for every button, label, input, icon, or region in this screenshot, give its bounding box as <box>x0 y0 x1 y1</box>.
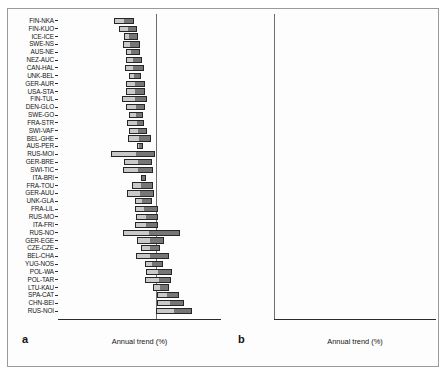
bar-row-label: GER-EGE <box>25 237 54 243</box>
bar-segment-dark <box>150 238 164 242</box>
panel-b: Annual trend (%) b <box>228 10 432 349</box>
bar-row-label: SWE-NS <box>29 41 54 47</box>
y-axis-tick <box>55 146 58 147</box>
bar-row: BEL-CHA <box>58 253 221 260</box>
plot-area-a: FIN-NKAFIN-KUOICE-ICESWE-NSAUS-NENEZ-AUC… <box>58 14 221 320</box>
bar-row-label: POL-TAR <box>28 277 54 283</box>
trend-interval-bar <box>123 230 180 236</box>
trend-interval-bar <box>145 277 172 283</box>
bar-segment-light <box>124 231 151 235</box>
y-axis-tick <box>55 287 58 288</box>
y-axis-tick <box>55 52 58 53</box>
bar-row-label: AUS-PER <box>26 143 54 149</box>
bar-row-label: CZE-CZE <box>27 245 54 251</box>
bar-row: RUS-MOI <box>58 151 221 158</box>
bar-row-label: SPA-CAT <box>28 292 54 298</box>
bar-row: GER-AUR <box>58 80 221 87</box>
bar-row-label: SWE-GO <box>28 112 54 118</box>
y-axis-tick <box>55 28 58 29</box>
bar-segment-dark <box>136 152 154 156</box>
bar-row-label: GER-AUU <box>25 190 54 196</box>
trend-interval-bar <box>135 198 152 204</box>
y-axis-tick <box>55 115 58 116</box>
bar-row: CZE-CZE <box>58 245 221 252</box>
bar-row: AUS-PER <box>58 143 221 150</box>
bar-row: SWI-VAF <box>58 127 221 134</box>
y-axis-tick <box>55 99 58 100</box>
y-axis-tick <box>55 224 58 225</box>
bar-row: FRA-TOU <box>58 182 221 189</box>
bar-segment-dark <box>159 278 171 282</box>
figure-root: FIN-NKAFIN-KUOICE-ICESWE-NSAUS-NENEZ-AUC… <box>0 0 446 375</box>
bar-row: DEN-GLO <box>58 104 221 111</box>
trend-interval-bar <box>114 18 134 24</box>
bar-row: CAN-HAL <box>58 64 221 71</box>
bar-segment-dark <box>134 74 140 78</box>
y-axis-tick <box>55 20 58 21</box>
y-axis-tick <box>55 209 58 210</box>
y-axis-tick <box>55 138 58 139</box>
y-axis-tick <box>55 91 58 92</box>
bar-segment-dark <box>146 223 158 227</box>
x-axis-ticks-b <box>274 319 436 320</box>
y-axis-tick <box>55 154 58 155</box>
trend-interval-bar <box>123 41 140 47</box>
bar-segment-dark <box>158 270 171 274</box>
bar-row-label: RUS-NO <box>30 229 55 235</box>
y-axis-tick <box>55 107 58 108</box>
y-axis-tick <box>55 232 58 233</box>
bar-segment-dark <box>150 254 168 258</box>
bar-segment-dark <box>131 50 139 54</box>
y-axis-tick <box>55 75 58 76</box>
bar-row-label: USA-STA <box>28 88 54 94</box>
bar-row: FRA-STR <box>58 119 221 126</box>
y-axis-tick <box>55 271 58 272</box>
bar-row: SWE-GO <box>58 112 221 119</box>
bar-segment-dark <box>129 34 137 38</box>
trend-interval-bar <box>122 96 147 102</box>
bar-row-label: CAN-HAL <box>27 65 54 71</box>
bar-row-label: LTU-KAU <box>28 284 54 290</box>
y-axis-tick <box>55 44 58 45</box>
trend-interval-bar <box>123 167 153 173</box>
trend-interval-bar <box>126 104 146 110</box>
trend-interval-bar <box>126 81 144 87</box>
bar-segment-dark <box>135 97 145 101</box>
bar-row: ICE-ICE <box>58 33 221 40</box>
trend-interval-bar <box>145 261 163 267</box>
trend-interval-bar <box>124 159 152 165</box>
y-axis-tick <box>55 177 58 178</box>
trend-interval-bar <box>119 26 137 32</box>
trend-interval-bar <box>127 120 144 126</box>
bar-row-label: RUS-NOI <box>28 308 54 314</box>
bar-row-label: SWI-TIC <box>30 167 54 173</box>
bar-segment-dark <box>167 293 178 297</box>
trend-interval-bar <box>136 214 158 220</box>
trend-interval-bar <box>157 300 184 306</box>
bar-segment-dark <box>150 246 160 250</box>
bar-segment-dark <box>142 176 145 180</box>
trend-interval-bar <box>111 151 155 157</box>
y-axis-tick <box>55 36 58 37</box>
trend-interval-bar <box>126 57 142 63</box>
y-axis-tick <box>55 295 58 296</box>
y-axis-tick <box>55 240 58 241</box>
bar-segment-dark <box>152 262 162 266</box>
trend-interval-bar <box>141 245 160 251</box>
bar-row: FIN-KUO <box>58 25 221 32</box>
bar-row: GER-BRE <box>58 159 221 166</box>
bar-row-label: SWI-VAF <box>29 128 54 134</box>
bar-row-label: GER-BRE <box>26 159 54 165</box>
y-axis-tick <box>55 201 58 202</box>
trend-interval-bar <box>132 182 152 188</box>
trend-interval-bar <box>127 190 154 196</box>
bar-row-label: BEL-GHE <box>27 135 54 141</box>
y-axis-tick <box>55 162 58 163</box>
y-axis-tick <box>55 122 58 123</box>
panel-letter-a: a <box>22 334 28 345</box>
bar-segment-dark <box>133 58 141 62</box>
bar-row: FIN-NKA <box>58 17 221 24</box>
bar-row: UNK-GLA <box>58 198 221 205</box>
bar-segment-light <box>112 152 138 156</box>
trend-interval-bar <box>156 308 192 314</box>
